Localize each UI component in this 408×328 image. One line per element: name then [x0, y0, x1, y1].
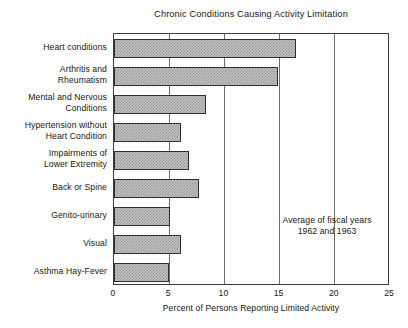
category-label: Mental and NervousConditions: [0, 92, 107, 114]
bar-row: [114, 62, 388, 90]
bars-layer: [114, 34, 388, 284]
bar[interactable]: [114, 151, 189, 170]
plot-area: [113, 33, 389, 285]
chart-title: Chronic Conditions Causing Activity Limi…: [113, 9, 389, 19]
x-tick-label: 25: [374, 288, 404, 298]
category-label-line: Visual: [83, 238, 107, 248]
bar-chart: Chronic Conditions Causing Activity Limi…: [0, 0, 408, 328]
bar[interactable]: [114, 207, 170, 226]
category-label: Asthma Hay-Fever: [0, 266, 107, 277]
category-label: Arthritis andRheumatism: [0, 64, 107, 86]
annotation-line: 1962 and 1963: [268, 226, 386, 237]
category-label-line: Heart Condition: [0, 131, 107, 142]
bar[interactable]: [114, 179, 199, 198]
category-label-line: Mental and Nervous: [28, 92, 107, 102]
bar-row: [114, 118, 388, 146]
category-label: Impairments ofLower Extremity: [0, 148, 107, 170]
category-label-line: Hypertension without: [25, 120, 107, 130]
bar[interactable]: [114, 235, 181, 254]
bar-row: [114, 34, 388, 62]
bar[interactable]: [114, 95, 206, 114]
bar[interactable]: [114, 39, 296, 58]
category-label: Heart conditions: [0, 42, 107, 53]
bar[interactable]: [114, 263, 169, 282]
bar-row: [114, 174, 388, 202]
bar-row: [114, 90, 388, 118]
x-tick-label: 10: [208, 288, 238, 298]
x-tick-label: 5: [153, 288, 183, 298]
category-axis-labels: Heart conditionsArthritis andRheumatismM…: [0, 33, 107, 285]
x-tick-label: 0: [98, 288, 128, 298]
category-label-line: Rheumatism: [0, 75, 107, 86]
category-label-line: Genito-urinary: [51, 210, 107, 220]
category-label: Hypertension withoutHeart Condition: [0, 120, 107, 142]
category-label-line: Back or Spine: [52, 182, 107, 192]
category-label: Genito-urinary: [0, 210, 107, 221]
category-label-line: Lower Extremity: [0, 159, 107, 170]
category-label: Back or Spine: [0, 182, 107, 193]
category-label: Visual: [0, 238, 107, 249]
category-label-line: Conditions: [0, 103, 107, 114]
bar-row: [114, 258, 388, 286]
chart-annotation: Average of fiscal years1962 and 1963: [268, 215, 386, 237]
bar-row: [114, 146, 388, 174]
x-axis-tick-labels: 0510152025: [0, 288, 408, 302]
x-tick-label: 15: [264, 288, 294, 298]
x-axis-title: Percent of Persons Reporting Limited Act…: [113, 303, 389, 313]
annotation-line: Average of fiscal years: [268, 215, 386, 226]
category-label-line: Impairments of: [49, 148, 107, 158]
category-label-line: Asthma Hay-Fever: [34, 266, 107, 276]
category-label-line: Heart conditions: [43, 42, 107, 52]
bar[interactable]: [114, 123, 181, 142]
category-label-line: Arthritis and: [60, 64, 107, 74]
x-tick-label: 20: [319, 288, 349, 298]
bar[interactable]: [114, 67, 278, 86]
